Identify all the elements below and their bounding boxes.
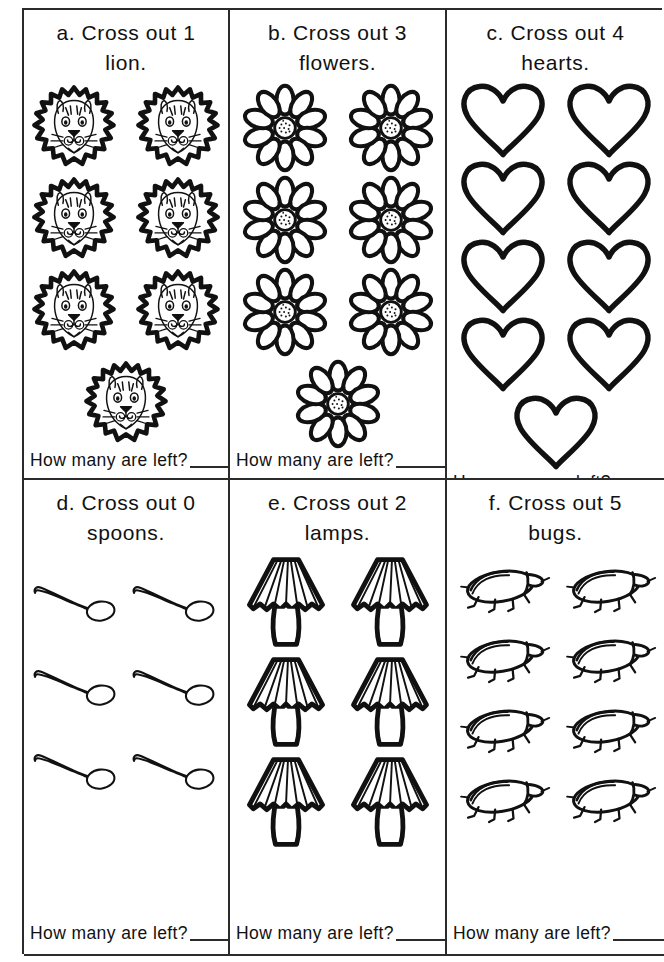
object-row <box>230 552 445 652</box>
bug-icon[interactable] <box>455 560 551 622</box>
flower-icon[interactable] <box>240 174 330 266</box>
prompt-f: f. Cross out 5 bugs. <box>447 480 664 548</box>
lion-icon[interactable] <box>28 82 120 174</box>
answer-row-a: How many are left? <box>24 450 228 480</box>
object-area-f <box>447 548 664 923</box>
prompt-d-line1: d. Cross out 0 <box>56 491 195 514</box>
spoon-icon[interactable] <box>29 742 124 804</box>
spoon-icon[interactable] <box>128 574 223 636</box>
heart-icon[interactable] <box>457 82 549 160</box>
object-row <box>230 752 445 852</box>
lamp-icon[interactable] <box>237 652 335 752</box>
prompt-b-line2: flowers. <box>244 48 431 78</box>
answer-row-b: How many are left? <box>230 450 445 480</box>
object-area-a <box>24 78 228 450</box>
bug-icon[interactable] <box>455 700 551 762</box>
object-row <box>230 174 445 266</box>
heart-icon[interactable] <box>457 238 549 316</box>
lion-icon[interactable] <box>132 82 224 174</box>
object-row <box>447 394 664 472</box>
lion-icon[interactable] <box>80 358 172 450</box>
lion-icon[interactable] <box>132 266 224 358</box>
spoon-icon[interactable] <box>128 742 223 804</box>
problem-cell-d[interactable]: d. Cross out 0 spoons. <box>24 480 230 956</box>
object-row <box>230 358 445 450</box>
spoon-icon[interactable] <box>29 574 124 636</box>
answer-row-f: How many are left? <box>447 923 664 954</box>
answer-row-e: How many are left? <box>230 923 445 954</box>
problem-cell-e[interactable]: e. Cross out 2 lamps. <box>230 480 447 956</box>
question-label-b: How many are left? <box>236 450 394 471</box>
spoon-icon[interactable] <box>128 658 223 720</box>
object-row <box>447 770 664 832</box>
lion-icon[interactable] <box>28 266 120 358</box>
flower-icon[interactable] <box>240 82 330 174</box>
question-label-d: How many are left? <box>30 923 188 944</box>
heart-icon[interactable] <box>563 82 655 160</box>
prompt-b-line1: b. Cross out 3 <box>268 21 407 44</box>
prompt-c-line1: c. Cross out 4 <box>487 21 625 44</box>
prompt-d: d. Cross out 0 spoons. <box>24 480 228 548</box>
answer-blank-d[interactable] <box>190 938 228 941</box>
flower-icon[interactable] <box>346 82 436 174</box>
spoon-icon[interactable] <box>29 658 124 720</box>
object-row <box>447 630 664 692</box>
answer-blank-b[interactable] <box>396 465 445 468</box>
object-row <box>447 160 664 238</box>
lamp-icon[interactable] <box>341 652 439 752</box>
problem-cell-f[interactable]: f. Cross out 5 bugs. <box>447 480 664 956</box>
question-label-a: How many are left? <box>30 450 188 471</box>
lion-icon[interactable] <box>132 174 224 266</box>
bug-icon[interactable] <box>561 770 657 832</box>
bug-icon[interactable] <box>455 630 551 692</box>
object-row <box>230 652 445 752</box>
answer-row-d: How many are left? <box>24 923 228 954</box>
object-row <box>24 358 228 450</box>
answer-blank-a[interactable] <box>190 465 228 468</box>
flower-icon[interactable] <box>240 266 330 358</box>
heart-icon[interactable] <box>457 160 549 238</box>
object-row <box>447 82 664 160</box>
bug-icon[interactable] <box>561 630 657 692</box>
answer-row-c: How many are left? <box>447 472 664 480</box>
problem-cell-c[interactable]: c. Cross out 4 hearts. How many are left… <box>447 10 664 480</box>
lion-icon[interactable] <box>28 174 120 266</box>
object-row <box>447 560 664 622</box>
object-area-b <box>230 78 445 450</box>
bug-icon[interactable] <box>561 700 657 762</box>
question-label-c: How many are left? <box>453 472 611 480</box>
bug-icon[interactable] <box>455 770 551 832</box>
object-row <box>447 238 664 316</box>
heart-icon[interactable] <box>563 238 655 316</box>
heart-icon[interactable] <box>563 160 655 238</box>
prompt-f-line1: f. Cross out 5 <box>489 491 622 514</box>
flower-icon[interactable] <box>346 174 436 266</box>
bug-icon[interactable] <box>561 560 657 622</box>
heart-icon[interactable] <box>510 394 602 472</box>
lamp-icon[interactable] <box>341 552 439 652</box>
heart-icon[interactable] <box>457 316 549 394</box>
object-row <box>447 316 664 394</box>
prompt-a: a. Cross out 1 lion. <box>24 10 228 78</box>
question-label-f: How many are left? <box>453 923 611 944</box>
prompt-f-line2: bugs. <box>461 518 650 548</box>
object-row <box>24 658 228 720</box>
lamp-icon[interactable] <box>237 552 335 652</box>
problem-cell-a[interactable]: a. Cross out 1 lion. <box>24 10 230 480</box>
prompt-b: b. Cross out 3 flowers. <box>230 10 445 78</box>
prompt-a-line2: lion. <box>38 48 214 78</box>
lamp-icon[interactable] <box>237 752 335 852</box>
object-row <box>230 266 445 358</box>
flower-icon[interactable] <box>293 358 383 450</box>
prompt-e-line1: e. Cross out 2 <box>268 491 407 514</box>
problem-cell-b[interactable]: b. Cross out 3 flowers. <box>230 10 447 480</box>
object-area-d <box>24 548 228 923</box>
prompt-d-line2: spoons. <box>38 518 214 548</box>
object-area-c <box>447 78 664 472</box>
flower-icon[interactable] <box>346 266 436 358</box>
lamp-icon[interactable] <box>341 752 439 852</box>
answer-blank-e[interactable] <box>396 938 445 941</box>
heart-icon[interactable] <box>563 316 655 394</box>
answer-blank-f[interactable] <box>613 938 664 941</box>
